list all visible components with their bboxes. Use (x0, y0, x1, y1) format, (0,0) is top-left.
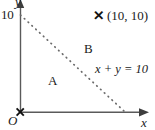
constraint-line-equation-label: x + y = 10 (95, 63, 148, 76)
region-label-b: B (84, 42, 93, 55)
origin-label: O (8, 114, 17, 127)
x-axis-label: x (141, 116, 147, 129)
point-coordinates-label: (10, 10) (107, 9, 148, 22)
feasible-region-figure: y x 10 O A B x + y = 10 ✕ (10, 10) (0, 0, 155, 130)
point-marker-icon: ✕ (93, 9, 105, 22)
y-axis-label: y (15, 0, 21, 8)
point-annotation: ✕ (10, 10) (93, 9, 148, 22)
y-axis-tick-label-10: 10 (1, 8, 14, 21)
region-label-a: A (48, 74, 57, 87)
